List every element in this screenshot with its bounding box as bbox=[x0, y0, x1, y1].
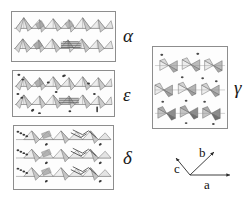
axis-label-b: b bbox=[199, 146, 206, 159]
panel-alpha bbox=[11, 11, 116, 62]
figure-root: α bbox=[0, 0, 252, 198]
axis-label-a: a bbox=[204, 178, 210, 191]
crystallographic-axes: b a c bbox=[173, 145, 235, 193]
phase-label-delta: δ bbox=[123, 148, 132, 167]
structure-epsilon bbox=[13, 71, 114, 116]
phase-label-gamma: γ bbox=[234, 78, 242, 97]
axis-label-c: c bbox=[174, 162, 180, 175]
phase-label-alpha: α bbox=[123, 26, 133, 45]
panel-epsilon bbox=[12, 70, 115, 117]
phase-label-epsilon: ε bbox=[123, 85, 131, 104]
structure-delta bbox=[14, 126, 113, 189]
panel-gamma bbox=[152, 46, 228, 129]
panel-delta bbox=[13, 125, 114, 190]
structure-gamma bbox=[153, 47, 227, 128]
structure-alpha bbox=[12, 12, 115, 61]
